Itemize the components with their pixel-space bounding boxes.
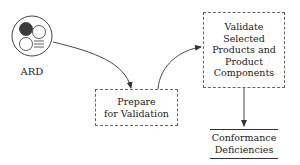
validate-label-line4: Product bbox=[212, 56, 276, 68]
prepare-label-line2: for Validation bbox=[104, 108, 169, 120]
ard-label: ARD bbox=[17, 66, 47, 78]
arrow-ard-to-prepare bbox=[53, 42, 131, 88]
conformance-deficiencies-store: Conformance Deficiencies bbox=[210, 129, 278, 159]
prepare-for-validation-process: Prepare for Validation bbox=[95, 89, 178, 126]
ard-document-icon bbox=[12, 16, 52, 56]
prepare-label-line1: Prepare bbox=[104, 96, 169, 108]
validate-label-line5: Components bbox=[212, 67, 276, 79]
arrow-prepare-to-validate bbox=[158, 47, 201, 89]
validate-products-process: Validate Selected Products and Product C… bbox=[203, 12, 285, 88]
validate-label-line2: Selected bbox=[212, 33, 276, 45]
validate-label-line3: Products and bbox=[212, 44, 276, 56]
validate-label-line1: Validate bbox=[212, 21, 276, 33]
conformance-label-line1: Conformance bbox=[210, 132, 278, 144]
conformance-label-line2: Deficiencies bbox=[210, 144, 278, 156]
